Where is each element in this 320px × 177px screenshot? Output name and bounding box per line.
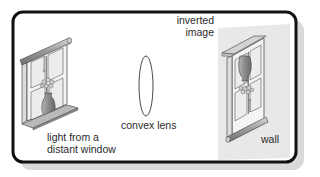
image-label-line2: image — [170, 26, 214, 38]
convex-lens — [139, 56, 153, 116]
source-label-line1: light from a — [47, 131, 116, 143]
source-label: light from a distant window — [47, 131, 116, 155]
source-label-line2: distant window — [47, 143, 116, 155]
lens-label: convex lens — [121, 119, 176, 131]
image-label: inverted image — [170, 14, 214, 38]
image-label-line1: inverted — [170, 14, 214, 26]
wall-label: wall — [261, 133, 279, 145]
